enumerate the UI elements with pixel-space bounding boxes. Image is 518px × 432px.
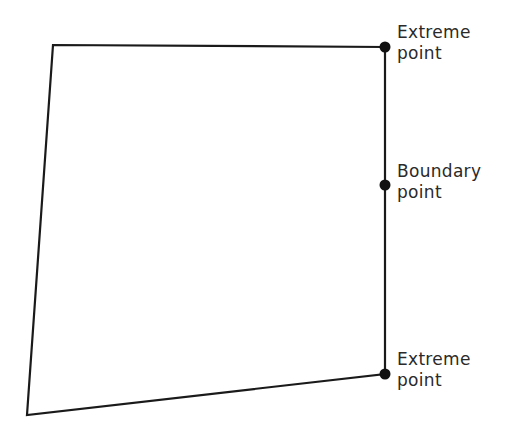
label-line-2: point [397,370,471,391]
label-line-1: Extreme [397,349,471,370]
convex-quadrilateral [27,45,385,415]
label-line-1: Extreme [397,22,471,43]
extreme-point-top-marker [380,42,391,53]
extreme-point-bottom-marker [380,369,391,380]
boundary-point-label: Boundary point [397,161,481,203]
label-line-1: Boundary [397,161,481,182]
label-line-2: point [397,182,481,203]
label-line-2: point [397,43,471,64]
extreme-point-bottom-label: Extreme point [397,349,471,391]
boundary-point-marker [380,180,391,191]
extreme-point-top-label: Extreme point [397,22,471,64]
